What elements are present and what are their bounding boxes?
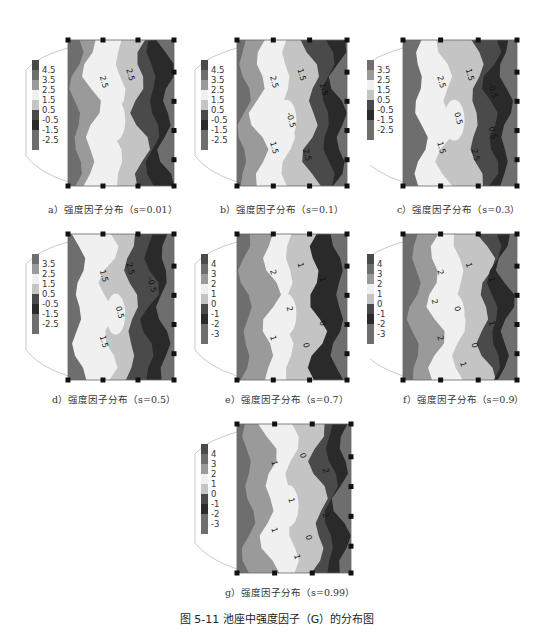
column-marker — [307, 378, 312, 383]
colorbar-tick-label: 2.5 — [42, 270, 56, 279]
colorbar-tick-label: -2 — [377, 320, 385, 329]
colorbar-swatch — [201, 70, 208, 80]
contour-panel-c: 2.51.5-0.50.51.52.50.53.52.51.50.5-0.5-1… — [370, 0, 554, 220]
colorbar-tick-label: 3 — [211, 270, 216, 279]
colorbar-swatch — [367, 324, 374, 334]
column-marker — [438, 184, 443, 189]
column-marker — [271, 38, 276, 43]
column-marker — [235, 378, 240, 383]
colorbar-swatch — [367, 80, 374, 90]
colorbar-tick-label: 3.5 — [42, 260, 56, 269]
colorbar-tick-label: -1 — [211, 500, 219, 509]
colorbar-swatch — [201, 304, 208, 314]
panel-caption-a: a）强度因子分布（s=0.01） — [48, 202, 178, 216]
contour-panel-e: 211210043210-1-2-3 — [185, 220, 369, 410]
colorbar-tick-label: -3 — [211, 520, 219, 529]
colorbar-swatch — [201, 140, 208, 150]
contour-plot: 2.51.5-0.50.51.52.50.5 — [370, 0, 554, 200]
colorbar-swatch — [367, 110, 374, 120]
column-marker — [438, 232, 443, 237]
colorbar-swatch — [32, 120, 39, 130]
colorbar-swatch — [32, 110, 39, 120]
column-marker — [401, 232, 406, 237]
colorbar-swatch — [201, 264, 208, 274]
column-marker — [66, 232, 71, 237]
colorbar-tick-label: -2.5 — [377, 126, 394, 135]
column-marker — [345, 351, 350, 356]
column-marker — [172, 322, 177, 327]
column-marker — [476, 232, 481, 237]
column-marker — [310, 422, 315, 427]
colorbar-tick-label: 4.5 — [42, 66, 56, 75]
column-marker — [310, 571, 315, 576]
column-marker — [172, 157, 177, 162]
contour-panel-d: 1.52.5-0.50.51.53.52.51.50.5-0.5-1.5-2.5 — [0, 220, 184, 410]
column-marker — [172, 38, 177, 43]
colorbar-tick-label: -2.5 — [42, 136, 59, 145]
colorbar-swatch — [32, 294, 39, 304]
panel-caption-c: c）强度因子分布（s=0.3） — [397, 202, 520, 216]
column-marker — [515, 38, 520, 43]
column-marker — [349, 454, 354, 459]
colorbar-tick-label: 2.5 — [211, 86, 225, 95]
column-marker — [345, 38, 350, 43]
colorbar-swatch — [201, 60, 208, 70]
column-marker — [345, 157, 350, 162]
column-marker — [515, 351, 520, 356]
colorbar-swatch — [367, 60, 374, 70]
colorbar-tick-label: -1.5 — [377, 116, 394, 125]
column-marker — [349, 544, 354, 549]
colorbar-swatch — [367, 274, 374, 284]
hall-outline — [370, 242, 403, 376]
colorbar-swatch — [201, 274, 208, 284]
column-marker — [235, 38, 240, 43]
colorbar-tick-label: 2 — [377, 280, 382, 289]
column-marker — [515, 322, 520, 327]
column-marker — [476, 184, 481, 189]
colorbar-swatch — [367, 100, 374, 110]
colorbar-swatch — [201, 334, 208, 344]
column-marker — [401, 38, 406, 43]
colorbar-tick-label: -0.5 — [211, 116, 228, 125]
colorbar-tick-label: 2 — [211, 470, 216, 479]
colorbar-swatch — [201, 524, 208, 534]
column-marker — [515, 293, 520, 298]
colorbar-swatch — [32, 70, 39, 80]
colorbar-tick-label: 0 — [377, 300, 382, 309]
colorbar-swatch — [32, 140, 39, 150]
colorbar-tick-label: -1 — [377, 310, 385, 319]
column-marker — [172, 99, 177, 104]
colorbar-tick-label: 4.5 — [211, 66, 225, 75]
colorbar-swatch — [367, 264, 374, 274]
colorbar-tick-label: 0 — [211, 300, 216, 309]
colorbar-tick-label: 1 — [211, 480, 216, 489]
column-marker — [345, 99, 350, 104]
colorbar-tick-label: 2.5 — [42, 86, 56, 95]
column-marker — [271, 184, 276, 189]
contour-panel-f: 21102011243210-1-2-3 — [370, 220, 554, 410]
column-marker — [272, 571, 277, 576]
column-marker — [515, 99, 520, 104]
column-marker — [438, 38, 443, 43]
column-marker — [349, 514, 354, 519]
column-marker — [235, 184, 240, 189]
colorbar-tick-label: 4 — [211, 260, 216, 269]
panel-caption-g: g）强度因子分布（s=0.99） — [225, 585, 355, 599]
colorbar-swatch — [32, 284, 39, 294]
colorbar-swatch — [32, 130, 39, 140]
column-marker — [515, 157, 520, 162]
panel-caption-d: d）强度因子分布（s=0.5） — [52, 392, 176, 406]
colorbar-tick-label: -3 — [211, 330, 219, 339]
colorbar-tick-label: -3 — [377, 330, 385, 339]
column-marker — [100, 232, 105, 237]
column-marker — [100, 38, 105, 43]
colorbar-tick-label: -1.5 — [211, 126, 228, 135]
column-marker — [135, 38, 140, 43]
column-marker — [401, 378, 406, 383]
colorbar-swatch — [32, 264, 39, 274]
colorbar-tick-label: -0.5 — [42, 300, 59, 309]
column-marker — [515, 264, 520, 269]
colorbar-tick-label: 0.5 — [42, 290, 56, 299]
column-marker — [345, 293, 350, 298]
colorbar-swatch — [32, 90, 39, 100]
